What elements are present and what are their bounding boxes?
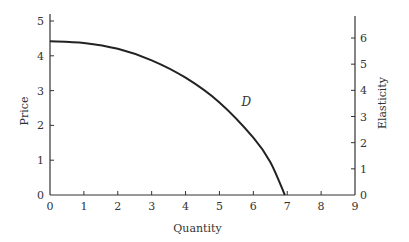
demand-curve — [50, 41, 285, 195]
x-tick-label: 0 — [47, 200, 54, 213]
x-tick-label: 2 — [114, 200, 121, 213]
y-tick-label: 5 — [37, 15, 44, 28]
y2-tick-label: 5 — [360, 58, 367, 71]
y2-tick-label: 6 — [360, 32, 367, 45]
x-tick-label: 3 — [148, 200, 155, 213]
demand-chart: 01234567890123450123456 D Quantity Price… — [0, 0, 409, 242]
axes — [50, 14, 355, 195]
x-tick-label: 5 — [216, 200, 223, 213]
x-tick-label: 4 — [182, 200, 189, 213]
y-tick-label: 0 — [37, 189, 44, 202]
x-tick-label: 6 — [250, 200, 257, 213]
y-axis-title: Price — [18, 97, 31, 126]
y2-tick-label: 0 — [360, 189, 367, 202]
x-axis-title: Quantity — [173, 222, 222, 235]
y-tick-label: 3 — [37, 85, 44, 98]
curve-label-d: D — [240, 95, 251, 109]
y-tick-label: 1 — [37, 154, 44, 167]
y2-tick-label: 4 — [360, 84, 367, 97]
y2-tick-label: 2 — [360, 137, 367, 150]
y2-tick-label: 1 — [360, 163, 367, 176]
y2-tick-label: 3 — [360, 111, 367, 124]
y-tick-label: 4 — [37, 50, 44, 63]
ticks: 01234567890123450123456 — [37, 15, 367, 213]
x-tick-label: 1 — [80, 200, 87, 213]
x-tick-label: 9 — [352, 200, 359, 213]
y-tick-label: 2 — [37, 119, 44, 132]
y2-axis-title: Elasticity — [376, 76, 389, 129]
x-tick-label: 7 — [284, 200, 291, 213]
x-tick-label: 8 — [318, 200, 325, 213]
